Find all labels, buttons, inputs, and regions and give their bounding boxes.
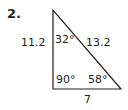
side-hypotenuse-label: 13.2	[86, 37, 111, 48]
side-left-label: 11.2	[21, 37, 46, 48]
angle-bottom-right-label: 58°	[88, 74, 108, 85]
side-bottom-label: 7	[84, 94, 91, 105]
angle-bottom-left-label: 90°	[56, 74, 76, 85]
angle-top-label: 32°	[55, 34, 75, 45]
right-triangle	[0, 0, 128, 110]
